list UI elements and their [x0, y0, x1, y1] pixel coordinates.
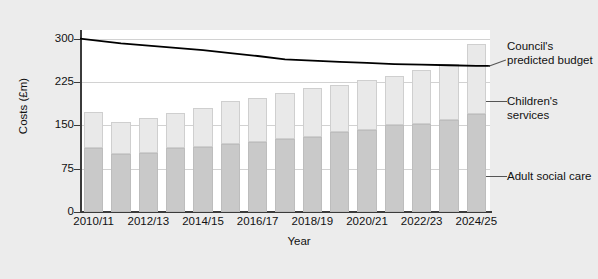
bar-segment-childrens-services	[111, 122, 130, 154]
bar-segment-childrens-services	[248, 98, 267, 142]
x-tick-label: 2018/19	[281, 215, 343, 227]
bar-segment-childrens-services	[275, 93, 294, 139]
bar-column	[166, 30, 185, 212]
annotation-childrens-services: Children's services	[507, 95, 595, 122]
bar-segment-childrens-services	[193, 108, 212, 147]
bar-segment-childrens-services	[84, 112, 103, 148]
bar-segment-adult-social-care	[166, 148, 185, 212]
bar-segment-adult-social-care	[84, 148, 103, 212]
bar-column	[193, 30, 212, 212]
bar-segment-childrens-services	[221, 101, 240, 144]
bar-column	[84, 30, 103, 212]
leader-line-children	[486, 101, 507, 102]
bar-column	[412, 30, 431, 212]
bar-segment-childrens-services	[467, 44, 486, 113]
y-tick-label-wrap: 150	[30, 119, 74, 130]
bar-column	[303, 30, 322, 212]
y-tick-label: 300	[36, 33, 74, 44]
bar-segment-adult-social-care	[385, 125, 404, 212]
annotation-council-predicted-budget: Council's predicted budget	[507, 40, 595, 67]
leader-line-budget	[488, 60, 506, 67]
bar-segment-adult-social-care	[412, 124, 431, 212]
bar-segment-adult-social-care	[467, 114, 486, 212]
bar-segment-childrens-services	[439, 64, 458, 119]
y-tick-label-wrap: 300	[30, 33, 74, 44]
bar-segment-adult-social-care	[248, 142, 267, 212]
x-tick-label: 2020/21	[336, 215, 398, 227]
x-axis-title: Year	[0, 235, 598, 247]
bar-column	[139, 30, 158, 212]
bar-column	[357, 30, 376, 212]
leader-line-adult	[486, 176, 507, 177]
y-tick-label-wrap: 75	[30, 163, 74, 174]
bar-segment-adult-social-care	[139, 153, 158, 212]
y-tick-label: 150	[36, 119, 74, 130]
annotation-adult-social-care: Adult social care	[507, 170, 595, 184]
chart-figure: 075150225300 Costs (£m) 2010/112012/1320…	[0, 0, 598, 279]
bar-segment-adult-social-care	[193, 147, 212, 212]
bar-segment-childrens-services	[412, 70, 431, 124]
bar-segment-adult-social-care	[439, 120, 458, 212]
y-tick-label: 75	[36, 163, 74, 174]
bar-column	[248, 30, 267, 212]
bar-segment-adult-social-care	[221, 144, 240, 212]
bar-column	[330, 30, 349, 212]
bar-segment-childrens-services	[166, 113, 185, 149]
bar-segment-adult-social-care	[357, 130, 376, 212]
y-axis-title: Costs (£m)	[17, 61, 29, 151]
x-tick-label: 2014/15	[172, 215, 234, 227]
x-tick-label: 2022/23	[391, 215, 453, 227]
bar-series-group	[80, 30, 490, 212]
bar-segment-childrens-services	[385, 76, 404, 126]
bar-segment-childrens-services	[357, 80, 376, 130]
bar-column	[221, 30, 240, 212]
bar-column	[467, 30, 486, 212]
bar-column	[439, 30, 458, 212]
x-tick-label: 2010/11	[63, 215, 125, 227]
bar-segment-adult-social-care	[275, 139, 294, 212]
x-tick-label: 2016/17	[227, 215, 289, 227]
x-tick-label: 2024/25	[445, 215, 507, 227]
bar-segment-childrens-services	[139, 118, 158, 153]
y-tick-label: 225	[36, 76, 74, 87]
bar-segment-childrens-services	[303, 88, 322, 137]
bar-segment-adult-social-care	[111, 154, 130, 212]
x-tick-label: 2012/13	[117, 215, 179, 227]
y-tick-label-wrap: 225	[30, 76, 74, 87]
bar-segment-adult-social-care	[303, 137, 322, 212]
bar-column	[385, 30, 404, 212]
bar-segment-childrens-services	[330, 85, 349, 132]
bar-column	[111, 30, 130, 212]
bar-column	[275, 30, 294, 212]
bar-segment-adult-social-care	[330, 132, 349, 212]
